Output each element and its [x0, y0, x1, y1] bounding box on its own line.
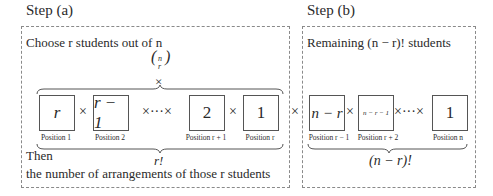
- times-op: ×: [79, 104, 87, 120]
- binom-bottom: r: [158, 63, 161, 71]
- step-a-choose-text: Choose r students out of n: [26, 35, 162, 51]
- step-b-title: Step (b): [307, 2, 355, 19]
- times-op: ×: [229, 104, 237, 120]
- n-minus-r-factorial-label: (n − r)!: [369, 153, 412, 169]
- times-dots-op: ×···×: [142, 104, 172, 120]
- arrangements-text: the number of arrangements of those r st…: [26, 166, 270, 182]
- position-box-r-minus-1: n − r: [309, 95, 345, 131]
- position-box-2: r − 1: [93, 95, 129, 131]
- step-b-remaining-text: Remaining (n − r)! students: [307, 35, 451, 51]
- times-dots-op: ×···×: [394, 104, 424, 120]
- step-a-title: Step (a): [26, 2, 73, 19]
- position-box-n: 1: [432, 95, 468, 131]
- position-caption: Position r: [230, 133, 290, 142]
- times-op: ×: [346, 104, 354, 120]
- position-box-r-plus-2: n − r − 1: [358, 95, 394, 131]
- position-box-1: r: [39, 95, 75, 131]
- binom-right-paren: ): [165, 53, 170, 61]
- position-box-r-plus-1: 2: [189, 95, 225, 131]
- position-caption: Position 1: [26, 133, 86, 142]
- position-box-r: 1: [243, 95, 279, 131]
- then-text: Then: [26, 148, 53, 164]
- position-caption: Position r + 1: [176, 133, 236, 142]
- position-caption: Position r − 1: [301, 133, 357, 142]
- position-caption: Position 2: [80, 133, 140, 142]
- top-brace-icon: [36, 87, 286, 95]
- between-times-op: ×: [291, 104, 299, 120]
- position-caption: Position r + 2: [350, 133, 406, 142]
- position-caption: Position n: [420, 133, 476, 142]
- binom-left-paren: (: [151, 53, 156, 61]
